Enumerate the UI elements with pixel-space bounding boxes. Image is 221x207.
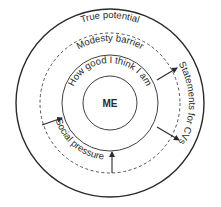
modesty-diagram: True potential Modesty barrier How good … xyxy=(0,0,221,207)
me-label: ME xyxy=(103,98,118,109)
modesty-barrier-label: Modesty barrier xyxy=(74,32,146,51)
social-pressure-label: Social pressure xyxy=(54,117,105,162)
how-good-label: How good I think I am xyxy=(65,54,154,88)
statements-arrow-lower xyxy=(157,127,179,140)
